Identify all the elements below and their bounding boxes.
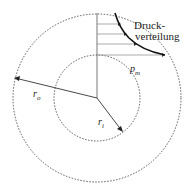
ri-label: ri <box>98 116 104 132</box>
radius-outer-line <box>15 78 97 98</box>
radius-outer-arrowhead <box>14 76 20 81</box>
pm-label: pm <box>130 63 140 79</box>
pressure-label-line2: verteilung <box>135 31 180 42</box>
radius-inner-arrowhead <box>117 126 123 132</box>
ro-label: ro <box>33 88 40 104</box>
